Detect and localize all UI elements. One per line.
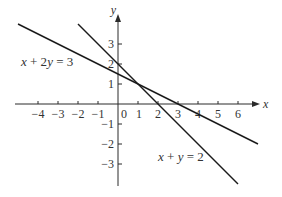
eq2-plus: +: [164, 149, 178, 164]
y-tick-label: −1: [101, 117, 114, 131]
linear-equations-graph: x −4 −3 −2 −1 0 1 2 3 4 5 6: [0, 0, 282, 197]
x-axis-arrow-icon: [252, 101, 260, 107]
y-tick-label: −3: [101, 157, 114, 171]
x-axis-tick-labels: −4 −3 −2 −1 0 1 2 3 4 5 6: [32, 107, 241, 121]
equation-label-x-plus-y-eq-2: x + y = 2: [157, 149, 204, 164]
y-axis-label: y: [110, 3, 117, 17]
eq2-rhs: = 2: [183, 149, 203, 164]
x-tick-label: 2: [155, 107, 161, 121]
y-axis: y 3 2 1 −1 −2 −3: [101, 3, 122, 186]
y-tick-label: 3: [108, 37, 114, 51]
x-tick-label: 6: [235, 107, 241, 121]
y-tick-label: −2: [101, 137, 114, 151]
x-axis: x −4 −3 −2 −1 0 1 2 3 4 5 6: [15, 97, 269, 121]
x-tick-label: −2: [72, 107, 85, 121]
x-tick-label: 1: [136, 107, 142, 121]
x-tick-label: 0: [121, 107, 127, 121]
equation-label-x-plus-2y-eq-3: x + 2y = 3: [20, 54, 73, 69]
x-tick-label: 5: [215, 107, 221, 121]
eq1-rhs: = 3: [53, 54, 73, 69]
x-axis-label: x: [262, 97, 269, 111]
x-tick-label: −3: [52, 107, 65, 121]
x-tick-label: −4: [32, 107, 45, 121]
eq1-plus: + 2: [27, 54, 47, 69]
y-tick-label: 1: [108, 77, 114, 91]
x-tick-label: 3: [175, 107, 181, 121]
